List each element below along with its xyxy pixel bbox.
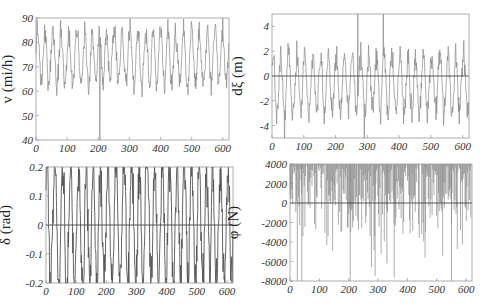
x-tick-label: 200 [327,140,344,152]
x-tick-label: 100 [68,285,85,297]
y-axis-label: φ (N) [225,206,242,239]
x-tick-label: 200 [340,283,357,295]
y-tick-label: 4 [264,20,270,32]
y-tick-label: 70 [22,61,34,73]
x-tick-label: 300 [369,283,387,295]
y-tick-label: -4 [260,120,270,132]
x-tick-label: 300 [127,285,145,297]
y-tick-label: 2000 [265,178,288,190]
x-tick-label: 400 [152,142,169,154]
y-tick-label: 60 [22,85,34,97]
y-tick-label: 0 [282,197,288,209]
x-tick-label: 500 [189,285,206,297]
x-tick-label: 600 [458,283,475,295]
y-axis-label: v (mi/h) [0,55,16,104]
panel-lateral-deviation: 0100200300400500600-4-2024dξ (m) [229,14,471,152]
x-tick-label: 600 [219,285,236,297]
y-tick-label: 0.2 [29,161,43,173]
panel-velocity: 0100200300400500600405060708090v (mi/h) [0,12,232,154]
y-tick-label: -2000 [261,217,287,229]
x-tick-label: 500 [429,283,446,295]
x-tick-label: 0 [269,140,275,152]
x-tick-label: 100 [311,283,328,295]
x-tick-label: 300 [358,140,376,152]
x-tick-label: 100 [296,140,313,152]
y-tick-label: 50 [22,110,34,122]
x-tick-label: 300 [120,142,138,154]
x-tick-label: 0 [287,283,293,295]
y-tick-label: 4000 [265,158,288,170]
y-tick-label: 2 [264,45,270,57]
y-tick-label: -6000 [261,256,287,268]
y-tick-label: 90 [22,12,34,24]
y-tick-label: -8000 [261,275,287,287]
y-tick-label: 0 [38,219,44,231]
x-tick-label: 200 [90,142,107,154]
x-tick-label: 500 [423,140,440,152]
y-tick-label: -2 [260,95,270,107]
x-tick-label: 500 [183,142,200,154]
x-tick-label: 0 [33,142,39,154]
x-tick-label: 400 [399,283,416,295]
y-tick-label: 40 [22,134,34,146]
panel-force: 0100200300400500600-8000-6000-4000-20000… [225,158,475,295]
y-tick-label: -0.2 [26,277,44,289]
x-tick-label: 600 [454,140,471,152]
y-axis-label: dξ (m) [229,56,246,96]
x-tick-label: 100 [59,142,76,154]
x-tick-label: 400 [391,140,408,152]
y-tick-label: -4000 [261,236,287,248]
series-line [36,18,229,140]
x-tick-label: 600 [215,142,232,154]
x-tick-label: 200 [98,285,115,297]
y-tick-label: 80 [22,36,34,48]
x-tick-label: 400 [158,285,175,297]
y-tick-label: 0.1 [29,190,43,202]
y-tick-label: 0 [264,70,270,82]
y-tick-label: -0.1 [26,248,43,260]
x-tick-label: 0 [43,285,49,297]
plot-frame [36,18,229,140]
y-axis-label: δ (rad) [0,205,14,245]
panel-steering-angle: 0100200300400500600-0.2-0.100.10.2δ (rad… [0,161,236,297]
series-line [290,164,472,281]
figure: 0100200300400500600405060708090v (mi/h) … [0,0,481,308]
